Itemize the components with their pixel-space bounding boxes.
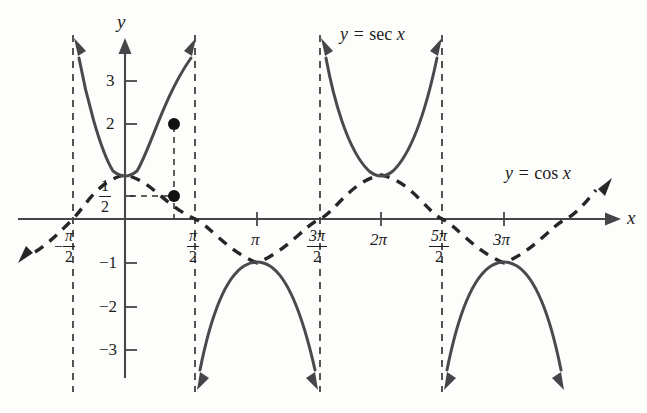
secant-branch-3 [326,58,437,176]
secant-curve-label: y = sec x [340,25,405,43]
x-tick-label-5pi-over-2: 5π 2 [429,228,449,265]
y-tick-label-one-half: 1 2 [99,178,111,215]
secant-branch-2-left-arrowhead [197,372,209,390]
one-half-numerator: 1 [99,178,111,194]
secant-branch-3-left-arrowhead [321,38,333,56]
y-axis-label: y [117,12,125,31]
x-tick-label-3pi: 3π [493,231,510,248]
x-tick-label-neg-pi-over-2: − π 2 [54,228,75,265]
x-tick-label-2pi: 2π [370,231,387,248]
pi-over-2-denominator: 2 [187,249,199,265]
y-tick-marks [125,81,137,350]
point-on-cosine [168,190,180,202]
secant-branch-1 [79,58,191,176]
three-pi-over-2-fraction-bar [307,246,327,247]
secant-label-arg: x [397,24,405,44]
x-tick-label-pi-over-2: π 2 [187,228,199,265]
y-tick-label-neg3: −3 [99,341,117,358]
secant-cosine-graph-figure: y x 3 2 1 2 −1 −2 −3 − π 2 π 2 π 3π 2 [0,0,647,413]
y-tick-label-3: 3 [106,72,115,89]
cosine-left-arrowhead [18,246,33,263]
secant-branch-2-right-arrowhead [306,372,318,390]
y-axis-arrowhead [119,38,132,54]
neg-pi-over-2-sign: − [54,239,63,255]
three-pi-over-2-numerator: 3π [307,228,327,244]
pi-over-2-fraction-bar [187,246,199,247]
y-tick-label-neg1: −1 [99,254,117,271]
graph-canvas [0,0,647,413]
cosine-right-arrowhead [598,178,612,196]
x-axis-label: x [627,208,635,227]
secant-branch-4-right-arrowhead [552,372,564,390]
secant-label-func: sec [369,24,392,44]
cosine-label-arg: x [563,163,571,183]
x-tick-label-3pi-over-2: 3π 2 [307,228,327,265]
pi-over-2-numerator: π [187,228,199,244]
secant-curve-group [74,38,564,390]
cosine-curve-label: y = cos x [505,164,571,182]
x-tick-label-pi: π [251,231,260,248]
secant-label-prefix: y = [340,24,369,44]
cosine-label-prefix: y = [505,163,534,183]
one-half-denominator: 2 [99,199,111,215]
y-tick-label-neg2: −2 [99,298,117,315]
secant-branch-1-left-arrowhead [74,38,86,56]
neg-pi-over-2-denominator: 2 [63,249,75,265]
five-pi-over-2-numerator: 5π [429,228,449,244]
one-half-fraction-bar [99,196,111,197]
five-pi-over-2-denominator: 2 [429,249,449,265]
secant-branch-3-right-arrowhead [430,38,442,56]
x-axis-arrowhead [605,213,621,226]
y-tick-label-2: 2 [106,115,115,132]
secant-branch-4 [447,262,561,370]
five-pi-over-2-fraction-bar [429,246,449,247]
neg-pi-over-2-fraction-bar [63,246,75,247]
point-on-secant [168,118,180,130]
neg-pi-over-2-numerator: π [63,228,75,244]
cosine-label-func: cos [534,163,558,183]
secant-branch-4-left-arrowhead [444,372,456,390]
secant-branch-2 [200,262,315,370]
three-pi-over-2-denominator: 2 [307,249,327,265]
